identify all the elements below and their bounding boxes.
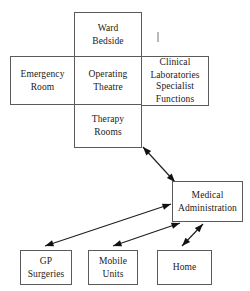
node-label-line: Clinical xyxy=(160,56,191,69)
node-label-line: Specialist xyxy=(156,81,194,93)
node-label-line: Mobile xyxy=(99,255,127,268)
arrowhead-admin-to-mobile-units-start xyxy=(171,223,180,229)
node-label-line: Rooms xyxy=(94,126,121,139)
node-label-line: Theatre xyxy=(93,81,123,94)
node-ward-bedside[interactable]: Ward Bedside xyxy=(74,12,142,57)
node-label-line: Functions xyxy=(156,93,194,106)
node-specialist-functions[interactable]: Specialist Functions xyxy=(141,81,209,106)
connector-therapy-to-admin xyxy=(143,147,175,182)
node-label-line: Emergency xyxy=(21,68,65,81)
node-medical-administration[interactable]: Medical Administration xyxy=(172,181,243,222)
arrowhead-admin-to-gp-surgeries-start xyxy=(162,204,171,210)
node-label-line: Operating xyxy=(89,68,128,81)
connector-admin-to-mobile-units xyxy=(113,223,180,246)
arrowhead-admin-to-home-end xyxy=(182,238,190,246)
node-label-line: Ward xyxy=(98,22,119,35)
node-label-line: Administration xyxy=(178,202,237,215)
node-gp-surgeries[interactable]: GP Surgeries xyxy=(20,250,72,285)
node-label-line: Surgeries xyxy=(28,268,65,281)
node-label-line: Laboratories xyxy=(150,69,199,82)
arrowhead-admin-to-mobile-units-end xyxy=(113,240,122,246)
node-therapy-rooms[interactable]: Therapy Rooms xyxy=(74,104,142,148)
node-home[interactable]: Home xyxy=(157,250,212,285)
arrowhead-admin-to-gp-surgeries-end xyxy=(45,240,54,246)
connector-admin-to-home xyxy=(182,224,203,246)
node-label-line: Units xyxy=(102,268,123,281)
arrowhead-admin-to-home-start xyxy=(195,224,203,232)
diagram-canvas: Ward Bedside Emergency Room Operating Th… xyxy=(0,0,250,291)
node-operating-theatre[interactable]: Operating Theatre xyxy=(74,56,142,105)
node-clinical-laboratories[interactable]: Clinical Laboratories xyxy=(141,56,209,82)
node-label-line: Home xyxy=(173,261,197,274)
node-label-line: Medical xyxy=(192,189,224,202)
scan-speck-artifact xyxy=(157,32,159,42)
node-mobile-units[interactable]: Mobile Units xyxy=(88,250,138,285)
connector-admin-to-gp-surgeries xyxy=(45,204,171,246)
node-label-line: Room xyxy=(31,81,55,94)
arrowhead-therapy-to-admin-start xyxy=(143,147,151,155)
node-label-line: Therapy xyxy=(92,113,124,126)
node-label-line: Bedside xyxy=(92,35,123,48)
node-label-line: GP xyxy=(40,255,52,268)
node-emergency-room[interactable]: Emergency Room xyxy=(10,56,75,105)
